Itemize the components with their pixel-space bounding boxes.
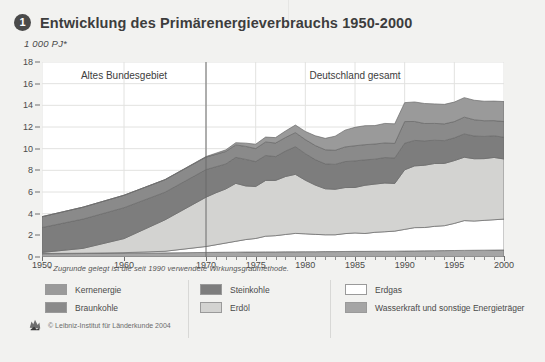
x-axis-minor-tick: [236, 257, 237, 260]
legend-label: Wasserkraft und sonstige Energieträger: [375, 303, 524, 313]
y-axis-tick: [35, 127, 40, 128]
x-axis-minor-tick: [365, 257, 366, 260]
legend-swatch-icon: [345, 302, 367, 313]
x-axis-minor-tick: [395, 257, 396, 260]
legend-item[interactable]: Erdöl: [200, 300, 270, 315]
x-axis-minor-tick: [425, 257, 426, 260]
x-axis-tick-label: 1990: [395, 260, 415, 270]
x-axis-minor-tick: [335, 257, 336, 260]
x-axis-minor-tick: [385, 257, 386, 260]
legend-swatch-icon: [45, 302, 67, 313]
y-axis-tick: [35, 62, 40, 63]
x-axis-tick-label: 1980: [295, 260, 315, 270]
chart-region-label: Deutschland gesamt: [309, 70, 400, 81]
y-axis-tick-label: 2: [28, 230, 33, 240]
figure-panel: 1 Entwicklung des Primärenergieverbrauch…: [0, 0, 545, 362]
x-axis-tick: [355, 257, 356, 261]
figure-number-badge: 1: [14, 14, 31, 31]
y-axis-tick: [35, 192, 40, 193]
chart-footnote: * Zugrunde gelegt ist die seit 1990 verw…: [48, 264, 289, 273]
legend-label: Steinkohle: [230, 285, 270, 295]
chart-legend: KernenergieBraunkohleSteinkohleErdölErdg…: [0, 282, 545, 316]
x-axis-tick-label: 1995: [444, 260, 464, 270]
figure-footer: © Leibniz-Institut für Länderkunde 2004: [28, 318, 171, 332]
x-axis-tick-label: 1985: [345, 260, 365, 270]
y-axis-tick: [35, 83, 40, 84]
figure-header: 1 Entwicklung des Primärenergieverbrauch…: [14, 14, 412, 31]
leibniz-logo-icon: [28, 318, 42, 332]
x-axis-minor-tick: [484, 257, 485, 260]
x-axis-minor-tick: [464, 257, 465, 260]
x-axis-minor-tick: [375, 257, 376, 260]
x-axis-minor-tick: [315, 257, 316, 260]
y-axis-tick: [35, 148, 40, 149]
x-axis-minor-tick: [285, 257, 286, 260]
x-axis-minor-tick: [226, 257, 227, 260]
legend-swatch-icon: [200, 284, 222, 295]
legend-column-1: KernenergieBraunkohle: [45, 282, 121, 318]
x-axis-minor-tick: [216, 257, 217, 260]
y-axis-tick: [35, 235, 40, 236]
x-axis-tick: [206, 257, 207, 261]
x-axis-minor-tick: [444, 257, 445, 260]
x-axis-tick: [42, 257, 43, 261]
chart-region-label: Altes Bundesgebiet: [81, 70, 167, 81]
legend-swatch-icon: [345, 284, 367, 295]
legend-divider: [330, 280, 331, 338]
y-axis-unit-label: 1 000 PJ*: [24, 38, 67, 49]
legend-swatch-icon: [45, 284, 67, 295]
x-axis-tick: [124, 257, 125, 261]
legend-column-3: ErdgasWasserkraft und sonstige Energietr…: [345, 282, 524, 318]
y-axis: 024681012141618: [0, 62, 42, 257]
x-axis-tick: [504, 257, 505, 261]
y-axis-tick-label: 4: [28, 209, 33, 219]
y-axis-tick-label: 6: [28, 187, 33, 197]
x-axis-tick: [256, 257, 257, 261]
x-axis-minor-tick: [474, 257, 475, 260]
legend-divider: [188, 280, 189, 338]
x-axis-tick-label: 2000: [494, 260, 514, 270]
x-axis-minor-tick: [246, 257, 247, 260]
page-title: Entwicklung des Primärenergieverbrauchs …: [40, 15, 412, 31]
x-axis-minor-tick: [434, 257, 435, 260]
legend-swatch-icon: [200, 302, 222, 313]
legend-item[interactable]: Braunkohle: [45, 300, 121, 315]
x-axis-tick: [454, 257, 455, 261]
y-axis-tick-label: 12: [23, 122, 33, 132]
x-axis-minor-tick: [325, 257, 326, 260]
y-axis-tick-label: 10: [23, 144, 33, 154]
legend-item[interactable]: Erdgas: [345, 282, 524, 297]
legend-label: Kernenergie: [75, 285, 121, 295]
y-axis-tick-label: 8: [28, 165, 33, 175]
y-axis-tick-label: 18: [23, 57, 33, 67]
legend-item[interactable]: Kernenergie: [45, 282, 121, 297]
x-axis-minor-tick: [494, 257, 495, 260]
y-axis-tick-label: 16: [23, 79, 33, 89]
legend-column-2: SteinkohleErdöl: [200, 282, 270, 318]
x-axis-minor-tick: [266, 257, 267, 260]
x-axis-minor-tick: [295, 257, 296, 260]
legend-label: Erdgas: [375, 285, 402, 295]
plot-area: [42, 62, 504, 257]
x-axis-minor-tick: [276, 257, 277, 260]
y-axis-tick: [35, 105, 40, 106]
y-axis-tick: [35, 213, 40, 214]
x-axis-tick: [305, 257, 306, 261]
y-axis-tick-label: 14: [23, 100, 33, 110]
x-axis-minor-tick: [415, 257, 416, 260]
chart-container: 024681012141618 195019601970197519801985…: [0, 50, 545, 262]
y-axis-tick: [35, 257, 40, 258]
legend-item[interactable]: Steinkohle: [200, 282, 270, 297]
legend-label: Erdöl: [230, 303, 250, 313]
x-axis-minor-tick: [345, 257, 346, 260]
x-axis-tick: [405, 257, 406, 261]
stacked-area-chart: [42, 62, 504, 257]
copyright-text: © Leibniz-Institut für Länderkunde 2004: [48, 322, 171, 329]
legend-item[interactable]: Wasserkraft und sonstige Energieträger: [345, 300, 524, 315]
y-axis-tick: [35, 170, 40, 171]
legend-label: Braunkohle: [75, 303, 118, 313]
